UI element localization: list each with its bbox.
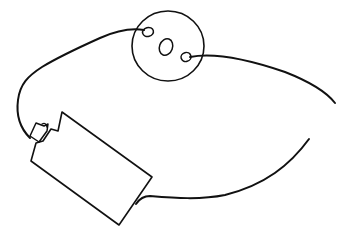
bulb-center (157, 37, 175, 57)
wire-right-lower (136, 139, 309, 204)
wire-left (18, 29, 145, 138)
circuit-diagram: Right-hand wire has a gap — circuit is o… (0, 0, 349, 236)
battery-terminal (30, 123, 48, 142)
light-bulb (132, 11, 204, 81)
battery (30, 112, 152, 225)
wire-right-upper (190, 55, 335, 103)
bulb-left-contact (142, 26, 155, 38)
